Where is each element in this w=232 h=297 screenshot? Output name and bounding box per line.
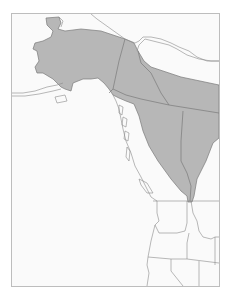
mackenzie-coast — [137, 39, 219, 61]
washington-border — [155, 201, 187, 233]
range-map — [11, 13, 220, 287]
idaho-border — [187, 201, 219, 263]
map-caption-partial: · · — [0, 0, 232, 3]
range-map-svg — [12, 14, 219, 286]
range-area — [33, 17, 219, 202]
kodiak-island — [55, 95, 67, 103]
oregon-border — [148, 225, 189, 259]
california-nevada-border — [147, 257, 199, 286]
alaska-peninsula — [12, 83, 63, 96]
